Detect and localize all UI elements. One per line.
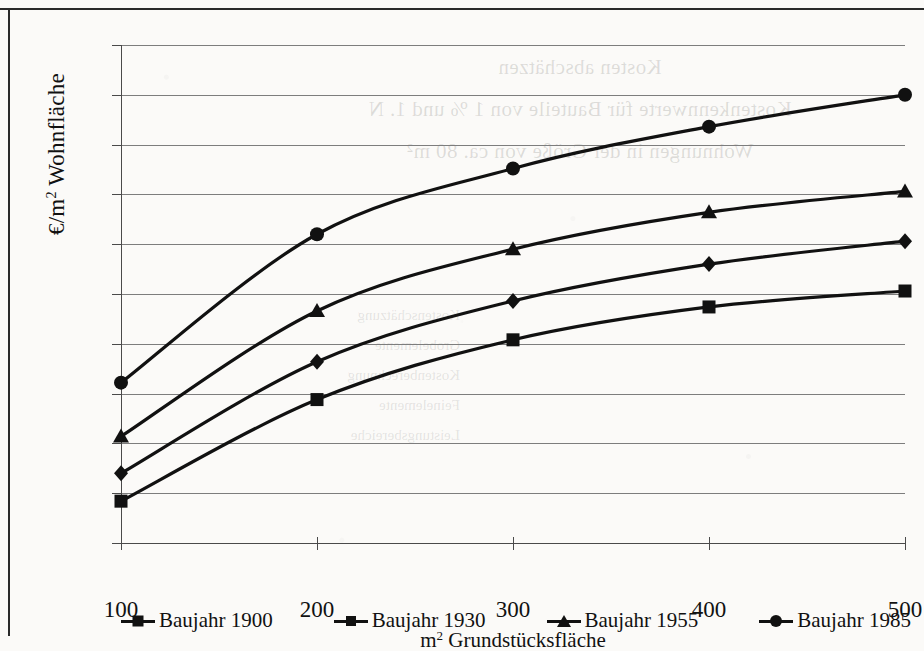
data-point-marker <box>114 465 128 481</box>
chart-legend: Baujahr 1900Baujahr 1930Baujahr 1955Bauj… <box>121 608 911 633</box>
y-axis-title-suffix: Wohnfläche <box>44 73 69 191</box>
series-baujahr-1955 <box>113 183 913 442</box>
legend-item-baujahr-1930[interactable]: Baujahr 1930 <box>334 608 486 633</box>
y-axis-title: €/m2 Wohnfläche <box>43 73 70 235</box>
data-point-marker <box>506 293 520 309</box>
legend-item-label: Baujahr 1985 <box>797 608 911 633</box>
data-point-marker <box>898 233 912 249</box>
data-point-marker <box>115 495 128 508</box>
diamond-marker-icon <box>334 614 368 628</box>
legend-item-baujahr-1985[interactable]: Baujahr 1985 <box>759 608 911 633</box>
y-axis-tick <box>112 394 121 395</box>
series-baujahr-1900 <box>115 285 912 508</box>
plot-area: 3 0002 7502 5002 2502 0001 7501 5001 250… <box>121 45 905 543</box>
y-axis-tick <box>112 344 121 345</box>
triangle-marker-icon <box>547 614 581 628</box>
series-layer <box>121 45 905 543</box>
y-axis-tick <box>112 244 121 245</box>
y-axis-tick <box>112 493 121 494</box>
series-baujahr-1930 <box>114 233 912 481</box>
data-point-marker <box>899 285 912 298</box>
y-axis-tick <box>112 95 121 96</box>
data-point-marker <box>507 333 520 346</box>
y-axis-tick <box>112 294 121 295</box>
data-point-marker <box>702 256 716 272</box>
legend-item-label: Baujahr 1955 <box>585 608 699 633</box>
legend-item-label: Baujahr 1900 <box>159 608 273 633</box>
data-point-marker <box>113 428 129 442</box>
data-point-marker <box>114 376 128 390</box>
circle-marker-icon <box>759 614 793 628</box>
data-point-marker <box>310 354 324 370</box>
data-point-marker <box>703 300 716 313</box>
data-point-marker <box>310 227 324 241</box>
legend-item-baujahr-1900[interactable]: Baujahr 1900 <box>121 608 273 633</box>
x-axis-tick <box>905 537 906 550</box>
legend-item-baujahr-1955[interactable]: Baujahr 1955 <box>547 608 699 633</box>
data-point-marker <box>702 120 716 134</box>
y-axis-tick <box>112 443 121 444</box>
y-axis-title-exponent: 2 <box>43 191 59 198</box>
data-point-marker <box>311 393 324 406</box>
data-point-marker <box>506 162 520 176</box>
y-axis-title-prefix: €/m <box>44 199 69 235</box>
y-axis-tick <box>112 145 121 146</box>
square-marker-icon <box>121 614 155 628</box>
series-line <box>121 191 905 436</box>
y-axis-tick <box>112 45 121 46</box>
series-line <box>121 291 905 501</box>
data-point-marker <box>898 88 912 102</box>
legend-item-label: Baujahr 1930 <box>372 608 486 633</box>
y-axis-tick <box>112 194 121 195</box>
y-axis-tick <box>112 543 121 544</box>
